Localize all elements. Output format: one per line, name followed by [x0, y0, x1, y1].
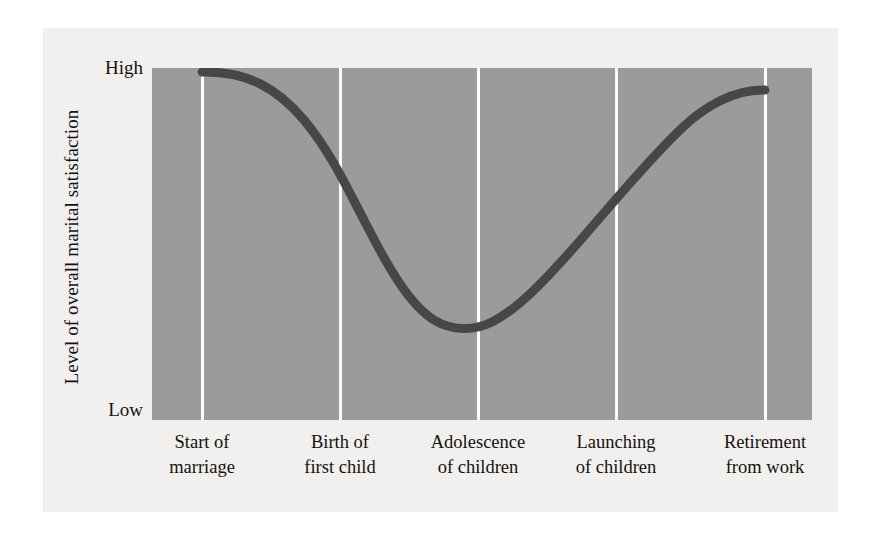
figure-root: Level of overall marital satisfaction Hi…	[0, 0, 881, 540]
marital-satisfaction-curve	[152, 68, 812, 420]
x-label-birth-of-first-child: Birth of first child	[265, 430, 415, 480]
y-axis-title: Level of overall marital satisfaction	[61, 67, 83, 427]
x-label-launching-of-children: Launching of children	[541, 430, 691, 480]
x-label-line2: of children	[403, 455, 553, 480]
x-label-adolescence-of-children: Adolescence of children	[403, 430, 553, 480]
x-label-line1: Birth of	[311, 432, 369, 452]
x-label-line1: Retirement	[724, 432, 806, 452]
x-label-line1: Launching	[576, 432, 655, 452]
y-axis-tick-low: Low	[48, 399, 143, 421]
x-label-line2: marriage	[127, 455, 277, 480]
x-axis-labels: Start of marriage Birth of first child A…	[152, 430, 842, 490]
x-label-line1: Adolescence	[431, 432, 526, 452]
plot-area	[152, 68, 812, 420]
x-label-line1: Start of	[175, 432, 230, 452]
y-axis-tick-high: High	[48, 57, 143, 79]
x-label-line2: first child	[265, 455, 415, 480]
x-label-line2: from work	[690, 455, 840, 480]
x-label-start-of-marriage: Start of marriage	[127, 430, 277, 480]
x-label-retirement-from-work: Retirement from work	[690, 430, 840, 480]
x-label-line2: of children	[541, 455, 691, 480]
